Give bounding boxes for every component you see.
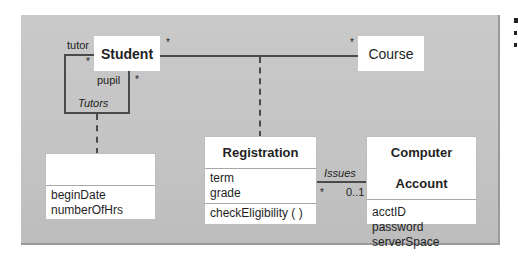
attribute: term bbox=[210, 171, 311, 186]
mult-tutor: * bbox=[86, 56, 90, 67]
attribute: numberOfHrs bbox=[51, 203, 150, 218]
attribute: acctID bbox=[372, 205, 471, 220]
operation: checkEligibility ( ) bbox=[210, 206, 311, 221]
class-tutors-attributes: beginDate numberOfHrs bbox=[46, 185, 155, 220]
mult-issues-account: 0..1 bbox=[346, 186, 364, 198]
tutors-loop-left bbox=[64, 54, 66, 114]
class-computer-account-name: Computer Account bbox=[367, 137, 476, 199]
class-course-name: Course bbox=[359, 37, 423, 72]
class-course[interactable]: Course bbox=[358, 36, 424, 71]
cropped-text-fragment bbox=[514, 43, 517, 47]
class-computer-account-attributes: acctID password serverSpace bbox=[367, 199, 476, 255]
class-registration-operations: checkEligibility ( ) bbox=[205, 203, 316, 223]
class-tutors-name bbox=[46, 154, 155, 185]
class-registration-name: Registration bbox=[205, 137, 316, 168]
mult-student-course-student: * bbox=[166, 37, 170, 48]
attribute: beginDate bbox=[51, 188, 150, 203]
association-tutors-name: Tutors bbox=[78, 97, 108, 109]
association-issues-name: Issues bbox=[324, 167, 356, 179]
registration-class-link bbox=[259, 57, 261, 137]
class-tutors[interactable]: beginDate numberOfHrs bbox=[45, 153, 156, 220]
attribute: serverSpace bbox=[372, 235, 471, 250]
mult-student-course-course: * bbox=[350, 37, 354, 48]
attribute: password bbox=[372, 220, 471, 235]
class-registration[interactable]: Registration term grade checkEligibility… bbox=[204, 136, 317, 225]
class-student[interactable]: Student bbox=[94, 36, 160, 71]
tutors-class-link bbox=[96, 114, 98, 154]
attribute: grade bbox=[210, 186, 311, 201]
tutors-loop-right bbox=[128, 70, 130, 114]
mult-pupil: * bbox=[135, 74, 139, 85]
class-student-name: Student bbox=[95, 37, 159, 72]
issues-association bbox=[316, 181, 366, 183]
cropped-text-fragment bbox=[514, 18, 518, 23]
role-pupil: pupil bbox=[97, 74, 120, 86]
cropped-text-fragment bbox=[514, 31, 517, 35]
role-tutor: tutor bbox=[67, 39, 89, 51]
mult-issues-registration: * bbox=[320, 187, 324, 198]
class-registration-attributes: term grade bbox=[205, 168, 316, 203]
class-computer-account[interactable]: Computer Account acctID password serverS… bbox=[366, 136, 477, 225]
